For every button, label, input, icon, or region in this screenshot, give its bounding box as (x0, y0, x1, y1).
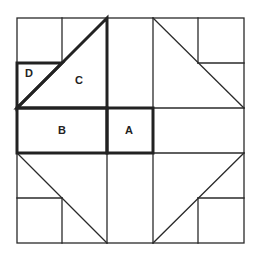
label-a: A (125, 124, 133, 136)
piece-d-outline (17, 63, 62, 108)
quilt-block-diagram: D C B A (0, 0, 258, 257)
label-d: D (25, 67, 33, 79)
label-c: C (75, 74, 83, 86)
label-b: B (58, 124, 66, 136)
